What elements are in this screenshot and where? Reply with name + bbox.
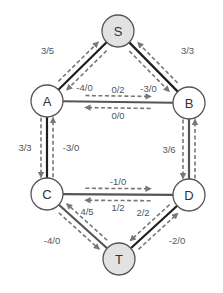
forward-flow-arrow-a-b — [85, 96, 150, 97]
edge-c-d — [63, 194, 173, 195]
edge-label-a-c-reverse: -3/0 — [63, 142, 79, 153]
edge-label-d-t-reverse: -2/0 — [169, 235, 185, 246]
edge-label-s-a-reverse: -4/0 — [76, 82, 92, 93]
node-label-c: C — [42, 187, 51, 202]
node-c: C — [31, 178, 63, 210]
edge-label-b-d-forward: 3/6 — [162, 144, 175, 155]
edge-label-c-d-reverse: 1/2 — [111, 202, 124, 213]
edge-label-s-b-forward: 3/3 — [181, 45, 194, 56]
reverse-flow-arrow-s-a — [58, 42, 98, 81]
edge-label-c-d-forward: -1/0 — [110, 176, 126, 187]
edge-label-s-b-reverse: -3/0 — [140, 83, 156, 94]
edge-label-a-b-reverse: 0/0 — [111, 110, 124, 121]
edge-label-a-c-forward: 3/3 — [18, 142, 31, 153]
edge-label-c-t-reverse: -4/0 — [44, 235, 60, 246]
reverse-flow-arrow-a-b — [85, 108, 150, 109]
edge-label-a-b-forward: 0/2 — [111, 84, 124, 95]
edge-label-c-t-forward: 4/5 — [80, 206, 93, 217]
reverse-flow-arrow-s-b — [138, 43, 178, 83]
edge-a-b — [63, 101, 173, 103]
node-b: B — [173, 87, 205, 119]
flow-network-diagram: 3/5-4/03/3-3/00/20/03/3-3/03/6-1/01/24/5… — [0, 0, 223, 293]
node-a: A — [31, 85, 63, 117]
node-t: T — [103, 243, 135, 275]
node-s: S — [102, 15, 134, 47]
edge-label-s-a-forward: 3/5 — [41, 45, 54, 56]
edge-label-d-t-forward: 2/2 — [136, 207, 149, 218]
node-label-b: B — [185, 96, 194, 111]
forward-flow-arrow-c-t — [59, 213, 99, 249]
node-label-d: D — [184, 188, 193, 203]
node-label-t: T — [115, 252, 123, 267]
node-label-s: S — [114, 24, 123, 39]
node-label-a: A — [43, 94, 52, 109]
node-d: D — [173, 179, 205, 211]
